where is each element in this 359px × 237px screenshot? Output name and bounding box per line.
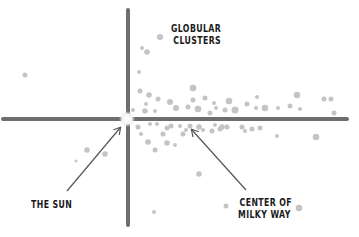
globular-cluster-dot: [137, 70, 141, 74]
globular-cluster-dot: [75, 160, 78, 163]
globular-cluster-dot: [213, 123, 217, 127]
globular-cluster-dot: [225, 125, 230, 130]
globular-cluster-dot: [148, 122, 152, 126]
globular-cluster-dot: [142, 108, 148, 114]
globular-cluster-dot: [296, 205, 303, 212]
globular-cluster-dot: [254, 106, 258, 110]
globular-cluster-dot: [226, 98, 233, 105]
galactic-center-pointer-arrow: [192, 130, 246, 190]
globular-cluster-dot: [332, 111, 337, 116]
globular-cluster-dot: [144, 49, 150, 55]
sun-marker: [119, 111, 135, 127]
globular-cluster-dot: [144, 102, 148, 106]
globular-cluster-dot: [208, 111, 213, 116]
globular-cluster-dot: [288, 104, 293, 109]
globular-cluster-dot: [156, 97, 161, 102]
globular-cluster-dot: [131, 108, 135, 112]
globular-cluster-dot: [250, 127, 255, 132]
globular-cluster-dot: [140, 46, 144, 50]
globular-clusters-label-line2: CLUSTERS: [171, 35, 221, 47]
globular-cluster-dot: [173, 105, 179, 111]
globular-cluster-dot: [139, 132, 143, 136]
globular-cluster-dot: [84, 147, 90, 153]
galactic-center-label-line2: MILKY WAY: [238, 209, 292, 221]
globular-cluster-dot: [275, 134, 279, 138]
globular-cluster-dot: [258, 126, 263, 131]
globular-cluster-dot: [178, 124, 182, 128]
globular-cluster-dot: [191, 98, 196, 103]
globular-cluster-dot: [157, 34, 163, 40]
globular-clusters-label-line1: GLOBULAR: [171, 23, 221, 35]
globular-cluster-dot: [240, 125, 245, 130]
globular-cluster-dot: [145, 139, 151, 145]
globular-cluster-dot: [102, 151, 108, 157]
globular-cluster-dot: [313, 134, 320, 141]
globular-cluster-dot: [298, 107, 302, 111]
globular-cluster-dot: [203, 96, 208, 101]
globular-cluster-dot: [167, 99, 173, 105]
globular-cluster-dot: [188, 124, 193, 129]
globular-cluster-dot: [136, 125, 141, 130]
globular-cluster-dot: [210, 129, 215, 134]
globular-cluster-dot: [184, 128, 188, 132]
globular-clusters-label: GLOBULAR CLUSTERS: [171, 23, 221, 47]
globular-cluster-dot: [201, 128, 205, 132]
globular-cluster-dot: [195, 106, 202, 113]
sun-pointer-arrow: [67, 128, 120, 191]
globular-cluster-dot: [219, 124, 225, 130]
sun-label-text: THE SUN: [31, 199, 72, 211]
globular-cluster-dot: [276, 106, 280, 110]
globular-cluster-dot: [190, 85, 197, 92]
globular-cluster-dot: [169, 124, 174, 129]
galactic-center-label-line1: CENTER OF: [238, 197, 292, 209]
globular-cluster-dot: [153, 148, 158, 153]
globular-cluster-dot: [224, 204, 229, 209]
globular-cluster-dot: [255, 95, 259, 99]
globular-cluster-dot: [155, 122, 159, 126]
globular-cluster-dot: [214, 106, 218, 110]
globular-cluster-dot: [262, 105, 269, 112]
globular-cluster-dot: [164, 140, 170, 146]
globular-cluster-dot: [232, 107, 239, 114]
globular-cluster-dot: [322, 97, 327, 102]
globular-cluster-dot: [153, 109, 157, 113]
globular-cluster-dot: [243, 129, 247, 133]
globular-cluster-dot: [173, 143, 177, 147]
globular-cluster-dot: [161, 132, 166, 137]
globular-cluster-dot: [329, 97, 334, 102]
globular-cluster-dot: [181, 132, 186, 137]
globular-cluster-dot: [294, 92, 301, 99]
globular-cluster-dot: [245, 102, 250, 107]
sun-label: THE SUN: [31, 199, 72, 211]
milky-way-diagram: GLOBULAR CLUSTERS THE SUN CENTER OF MILK…: [0, 0, 359, 237]
globular-cluster-dot: [138, 89, 143, 94]
globular-cluster-dot: [196, 124, 202, 130]
globular-cluster-dot: [152, 210, 156, 214]
globular-cluster-dot: [212, 101, 216, 105]
globular-cluster-dot: [223, 108, 228, 113]
globular-cluster-dot: [186, 105, 191, 110]
galactic-center-label: CENTER OF MILKY WAY: [238, 197, 292, 221]
globular-cluster-dot: [196, 171, 202, 177]
globular-cluster-dot: [23, 73, 28, 78]
globular-cluster-dot: [146, 92, 152, 98]
